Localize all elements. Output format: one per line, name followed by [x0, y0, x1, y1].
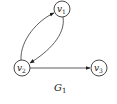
- graph-caption: G1: [54, 82, 66, 95]
- node-v3: v3: [91, 60, 107, 76]
- node-v1: v1: [54, 1, 70, 17]
- graph-diagram: v1 v2 v3 G1: [0, 0, 117, 104]
- edge-v1-v2: [30, 17, 63, 63]
- node-v2: v2: [14, 60, 30, 76]
- edge-v2-v1: [21, 13, 54, 60]
